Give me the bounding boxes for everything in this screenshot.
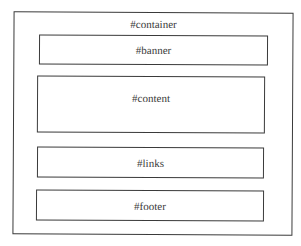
banner-box: #banner: [39, 34, 268, 65]
footer-label: #footer: [37, 199, 263, 212]
links-box: #links: [37, 146, 264, 178]
footer-box: #footer: [36, 189, 264, 221]
content-label: #content: [38, 91, 264, 104]
container-label: #container: [14, 17, 292, 30]
links-label: #links: [38, 156, 263, 169]
content-box: #content: [37, 75, 265, 133]
banner-label: #banner: [40, 43, 267, 56]
